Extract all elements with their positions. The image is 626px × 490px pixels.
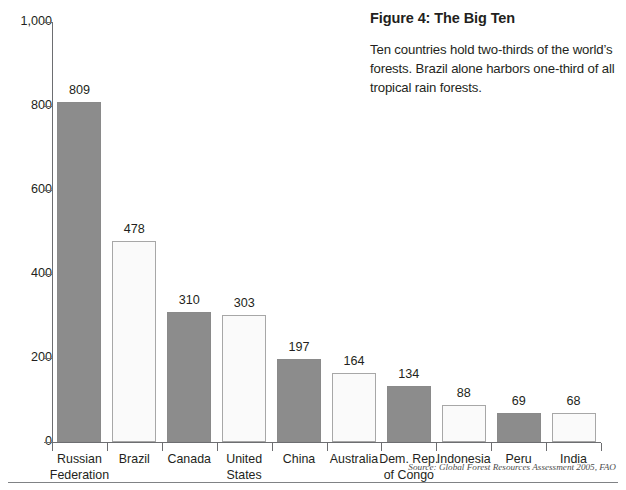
y-axis-tick-label: 0 bbox=[45, 434, 52, 448]
y-axis-tick-mark bbox=[44, 22, 53, 23]
y-axis-tick-label: 1,000 bbox=[20, 14, 52, 28]
bar[interactable] bbox=[167, 312, 211, 442]
x-axis-tick-mark bbox=[546, 443, 547, 451]
bar-value-label: 134 bbox=[375, 367, 442, 381]
y-axis-tick-mark bbox=[44, 190, 53, 191]
bar[interactable] bbox=[57, 102, 101, 442]
x-axis-tick-mark bbox=[217, 443, 218, 451]
bar[interactable] bbox=[387, 386, 431, 442]
bar-value-label: 809 bbox=[46, 83, 113, 97]
bar[interactable] bbox=[332, 373, 376, 442]
y-axis-tick: 200 bbox=[0, 358, 66, 359]
y-axis-tick-label: 800 bbox=[31, 98, 52, 112]
x-axis-tick-mark bbox=[491, 443, 492, 451]
y-axis-tick: 600 bbox=[0, 190, 66, 191]
figure-page: Figure 4: The Big Ten Ten countries hold… bbox=[0, 0, 626, 490]
y-axis-tick-label: 200 bbox=[31, 350, 52, 364]
y-axis-tick: 0 bbox=[0, 442, 66, 443]
y-axis-tick-mark bbox=[44, 106, 53, 107]
bar[interactable] bbox=[442, 405, 486, 442]
y-axis-tick-mark bbox=[44, 274, 53, 275]
x-axis-tick-mark bbox=[381, 443, 382, 451]
bar-value-label: 197 bbox=[266, 340, 333, 354]
bottom-divider bbox=[8, 482, 618, 483]
x-axis-tick-mark bbox=[162, 443, 163, 451]
bar-value-label: 68 bbox=[540, 394, 607, 408]
bar[interactable] bbox=[222, 315, 266, 442]
bar[interactable] bbox=[497, 413, 541, 442]
bar-chart: 02004006008001,000 809478310303197164134… bbox=[0, 0, 626, 490]
x-axis-tick-mark bbox=[436, 443, 437, 451]
bar[interactable] bbox=[552, 413, 596, 442]
x-axis-label-line: Federation bbox=[43, 468, 116, 484]
x-axis-tick-mark bbox=[272, 443, 273, 451]
y-axis-tick-mark bbox=[44, 358, 53, 359]
x-axis-label-line: States bbox=[208, 468, 281, 484]
x-axis-tick-mark bbox=[327, 443, 328, 451]
x-axis-tick-mark bbox=[52, 443, 53, 451]
bar-value-label: 478 bbox=[101, 222, 168, 236]
bar-value-label: 303 bbox=[211, 296, 278, 310]
y-axis-tick: 400 bbox=[0, 274, 66, 275]
y-axis-tick: 800 bbox=[0, 106, 66, 107]
y-axis-tick-label: 600 bbox=[31, 182, 52, 196]
bar[interactable] bbox=[277, 359, 321, 442]
y-axis-tick: 1,000 bbox=[0, 22, 66, 23]
x-axis-tick-mark bbox=[601, 443, 602, 451]
y-axis-tick-label: 400 bbox=[31, 266, 52, 280]
x-axis-tick-mark bbox=[107, 443, 108, 451]
bar[interactable] bbox=[112, 241, 156, 442]
source-note: Source: Global Forest Resources Assessme… bbox=[408, 462, 616, 472]
